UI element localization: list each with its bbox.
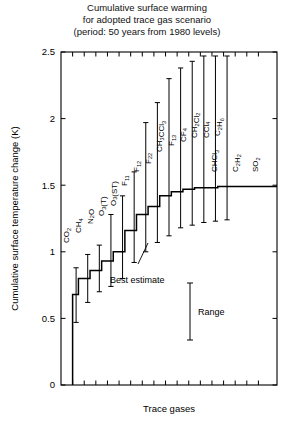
y-tick-label: 0.5: [42, 313, 55, 324]
y-axis-title: Cumulative surface temperature change (K…: [9, 126, 20, 310]
y-tick-label: 2: [50, 113, 55, 124]
gas-label-N2O: N2O: [86, 209, 97, 224]
gas-label-F11: F11: [120, 175, 130, 186]
y-tick-label: 0: [50, 379, 55, 390]
x-axis-ticks: [73, 52, 259, 385]
gas-label-SO2: SO2: [251, 157, 261, 172]
best-estimate-leader: [138, 243, 148, 264]
range-label: Range: [198, 307, 225, 317]
gas-label-F13: F13: [167, 135, 177, 146]
gas-label-CO2: CO2: [62, 228, 72, 243]
gas-label-O3(ST): O3(ST): [109, 181, 120, 206]
gas-label-CH4: CH4: [74, 218, 84, 233]
y-tick-label: 1: [50, 246, 55, 257]
x-axis-title: Trace gases: [143, 403, 195, 414]
gas-label-F22: F22: [144, 153, 154, 164]
gas-label-CH3CCl3: CH3CCl3: [155, 121, 166, 152]
gas-label-CCl4: CCl4: [202, 122, 212, 138]
gas-labels: CO2CH4N2OO3(T)O3(ST)F11F12F22CH3CCl3F13C…: [62, 113, 260, 243]
best-estimate-label: Best estimate: [110, 275, 165, 285]
y-tick-label: 1.5: [42, 180, 55, 191]
gas-label-CF4: CF4: [179, 128, 189, 142]
gas-label-O3(T): O3(T): [97, 196, 108, 216]
chart-page: Cumulative surface warming for adopted t…: [0, 0, 294, 434]
gas-label-CHCl3: CHCl3: [210, 150, 220, 172]
gas-label-C2H2: C2H2: [231, 154, 242, 172]
gas-label-F12: F12: [132, 161, 142, 172]
trace-gas-warming-chart: 00.511.522.5 CO2CH4N2OO3(T)O3(ST)F11F12F…: [0, 0, 294, 434]
y-tick-label: 2.5: [42, 46, 55, 57]
chart-legend: Best estimateRange: [110, 243, 225, 340]
